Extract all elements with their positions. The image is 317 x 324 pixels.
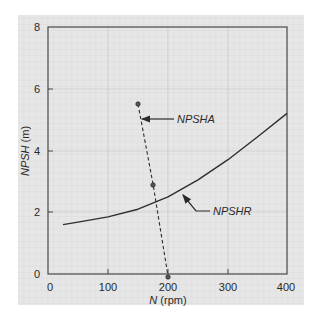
- npsha-label: NPSHA: [177, 113, 215, 125]
- y-axis-unit: (m): [19, 126, 31, 146]
- x-axis-variable: N: [149, 294, 157, 306]
- x-tick-label-200: 200: [159, 281, 177, 293]
- y-axis-title: NPSH (m): [19, 126, 31, 176]
- npsha-point-150: [136, 102, 140, 106]
- y-tick-label-4: 4: [34, 145, 40, 157]
- y-tick-label-8: 8: [34, 21, 40, 33]
- npsh-chart: 8 6 4 2 0 0 100 200 300 400 N (rpm) NPSH…: [0, 0, 317, 324]
- x-tick-label-0: 0: [47, 281, 53, 293]
- grid-texture: [18, 15, 304, 305]
- npsha-point-200: [166, 275, 170, 279]
- x-tick-label-400: 400: [277, 281, 295, 293]
- chart-svg: 8 6 4 2 0 0 100 200 300 400 N (rpm) NPSH…: [0, 0, 317, 324]
- y-tick-label-2: 2: [34, 206, 40, 218]
- x-tick-label-300: 300: [219, 281, 237, 293]
- y-tick-label-0: 0: [34, 268, 40, 280]
- y-axis-variable: NPSH: [19, 145, 31, 176]
- x-tick-label-100: 100: [99, 281, 117, 293]
- npshr-label: NPSHR: [213, 205, 252, 217]
- npsha-point-175: [151, 183, 155, 187]
- y-tick-label-6: 6: [34, 83, 40, 95]
- x-axis-unit: (rpm): [157, 294, 186, 306]
- x-axis-title: N (rpm): [149, 294, 186, 306]
